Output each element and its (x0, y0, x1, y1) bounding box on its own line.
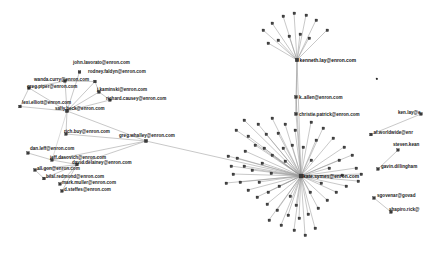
node-marker-kenneth.lay[interactable] (295, 58, 299, 62)
node-label-central.hub: kate.symes@enron.com (303, 174, 360, 179)
node-label-wanda.curry: wanda.curry@enron.com (33, 77, 89, 82)
node-label-kenneth.lay: kenneth.lay@enron.com (300, 58, 357, 63)
graph-node-all.gon[interactable]: all.gon@enron.com (34, 166, 80, 171)
node-marker-d.steffes[interactable] (61, 190, 64, 193)
node-label-gavin.dillingham: gavin.dillingham (381, 164, 417, 169)
node-label-steven.kean: steven.kean (393, 142, 419, 147)
node-marker-all.gon[interactable] (34, 169, 37, 172)
node-label-greg.piper: greg.piper@enron.com (27, 84, 77, 89)
node-marker-john.lavorato[interactable] (78, 71, 81, 74)
graph-node-greg.whalley[interactable]: greg.whalley@enron.com (119, 133, 175, 143)
node-marker-gavin.dillingham[interactable] (377, 168, 380, 171)
graph-node-gavin.dillingham[interactable]: gavin.dillingham (377, 164, 418, 170)
node-label-sally.beck: sally.beck@enron.com (55, 106, 105, 111)
network-graph-canvas: john.lavorato@enron.comrodney.faldyn@enr… (0, 0, 447, 258)
node-marker-mark.muller[interactable] (59, 183, 62, 186)
graph-node-shapiro.rick[interactable]: shapiro.rick@ (389, 207, 420, 213)
graph-node-d.steffes[interactable]: d.steffes@enron.com (61, 187, 111, 192)
node-label-all.gon: all.gon@enron.com (37, 166, 80, 171)
node-label-k.allen: k..allen@enron.com (299, 95, 343, 100)
graph-node-central.hub[interactable]: kate.symes@enron.com (299, 174, 360, 179)
node-label-j.kaminski: j.kaminski@enron.com (96, 87, 147, 92)
node-label-ken.lay.alt: ken.lay@e (398, 110, 421, 115)
node-label-shapiro.rick: shapiro.rick@ (389, 207, 420, 212)
graph-node-ken.lay.alt[interactable]: ken.lay@e (398, 110, 422, 116)
node-marker-lexi.elliott[interactable] (19, 105, 22, 108)
node-label-bilal.redmond: bilal.redmond@enron.com (46, 174, 104, 179)
node-marker-sgovenar[interactable] (373, 197, 376, 200)
node-marker-k.allen[interactable] (295, 96, 298, 99)
graph-node-dan.leff[interactable]: dan.leff@enron.com (27, 146, 75, 155)
graph-node-sgovenar[interactable]: sgovenar@govad (373, 193, 416, 199)
node-label-jeff.dasovich: jeff.dasovich@enron.com (49, 155, 106, 160)
graph-node-christie.patrick[interactable]: christie.patrick@enron.com (295, 112, 360, 117)
graph-node-kenneth.lay[interactable]: kenneth.lay@enron.com (295, 58, 357, 63)
graph-node-steven.kean[interactable]: steven.kean (393, 142, 419, 151)
node-marker-steven.kean[interactable] (397, 149, 400, 152)
node-marker-af.worldwide[interactable] (370, 133, 373, 136)
node-label-john.lavorato: john.lavorato@enron.com (72, 60, 130, 65)
graph-node-wanda.curry[interactable]: wanda.curry@enron.com (33, 77, 89, 82)
graph-node-richard.causey[interactable]: richard.causey@enron.com (106, 96, 166, 102)
graph-node-af.worldwide[interactable]: af.worldwide@enr (370, 130, 414, 136)
node-label-sgovenar: sgovenar@govad (377, 193, 416, 198)
graph-node-david.delainey[interactable]: david.delainey@enron.com (72, 160, 132, 166)
node-label-mark.muller: mark.muller@enron.com (62, 180, 116, 185)
node-label-rich.buy: rich.buy@enron.com (64, 129, 110, 134)
graph-node-bilal.redmond[interactable]: bilal.redmond@enron.com (43, 174, 104, 180)
node-label-richard.causey: richard.causey@enron.com (106, 96, 166, 101)
node-label-rodney.faldyn: rodney.faldyn@enron.com (88, 69, 146, 74)
node-marker-dan.leff[interactable] (27, 152, 30, 155)
graph-node-greg.piper[interactable]: greg.piper@enron.com (27, 84, 77, 89)
node-label-greg.whalley: greg.whalley@enron.com (119, 133, 175, 138)
node-label-d.steffes: d.steffes@enron.com (64, 187, 111, 192)
node-label-lexi.elliott: lexi.elliott@enron.com (22, 100, 71, 105)
node-marker-christie.patrick[interactable] (295, 113, 298, 116)
node-label-david.delainey: david.delainey@enron.com (72, 160, 132, 165)
node-marker-greg.whalley[interactable] (144, 139, 147, 142)
graph-node-k.allen[interactable]: k..allen@enron.com (295, 95, 343, 100)
graph-svg: john.lavorato@enron.comrodney.faldyn@enr… (0, 0, 447, 258)
node-label-dan.leff: dan.leff@enron.com (30, 146, 74, 151)
graph-node-sally.beck[interactable]: sally.beck@enron.com (55, 106, 105, 113)
graph-node-j.kaminski[interactable]: j.kaminski@enron.com (96, 87, 147, 93)
node-marker-bilal.redmond[interactable] (43, 177, 46, 180)
graph-node-rodney.faldyn[interactable]: rodney.faldyn@enron.com (88, 69, 146, 83)
graph-node-mark.muller[interactable]: mark.muller@enron.com (59, 180, 116, 185)
unlabeled-nodes (225, 12, 378, 237)
node-marker-rodney.faldyn[interactable] (94, 80, 97, 83)
node-label-christie.patrick: christie.patrick@enron.com (299, 112, 360, 117)
node-label-af.worldwide: af.worldwide@enr (374, 130, 414, 135)
